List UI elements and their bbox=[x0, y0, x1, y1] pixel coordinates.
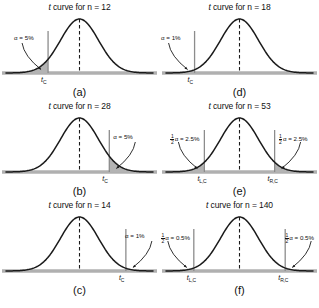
critical-value-label-0: tL,C bbox=[197, 175, 206, 184]
title-text: curve for n = 28 bbox=[51, 101, 111, 111]
leader-line bbox=[169, 43, 188, 70]
tick-subscript: L,C bbox=[199, 178, 206, 184]
panel-title: t curve for n = 18 bbox=[160, 2, 319, 12]
alpha-label-right: α = 1% bbox=[125, 233, 145, 239]
fraction-denominator: 2 bbox=[170, 139, 174, 145]
panel-letter: (e) bbox=[160, 185, 319, 197]
curve-plot bbox=[0, 13, 159, 85]
alpha-label-right: 12α = 2.5% bbox=[279, 134, 308, 145]
tick-subscript: L,C bbox=[189, 277, 196, 283]
panel-letter: (f) bbox=[160, 284, 319, 296]
alpha-value-text: α = 5% bbox=[113, 133, 133, 140]
alpha-value-text: α = 0.5% bbox=[289, 234, 314, 241]
alpha-value-text: α = 2.5% bbox=[283, 135, 308, 142]
panel-title: t curve for n = 14 bbox=[0, 200, 159, 210]
critical-value-label-0: tC bbox=[41, 76, 46, 85]
one-half-fraction: 12 bbox=[279, 134, 283, 145]
panel-title: t curve for n = 12 bbox=[0, 2, 159, 12]
critical-value-label-0: tL,C bbox=[187, 274, 196, 283]
title-text: curve for n = 12 bbox=[51, 2, 111, 12]
title-text: curve for n = 14 bbox=[51, 200, 111, 210]
alpha-value-text: α = 2.5% bbox=[175, 135, 200, 142]
panel-title: t curve for n = 140 bbox=[160, 200, 319, 210]
alpha-label-left: 12α = 0.5% bbox=[161, 233, 190, 244]
critical-value-label-1: tR,C bbox=[278, 274, 288, 283]
critical-value-label-0: tC bbox=[119, 274, 124, 283]
curve-plot bbox=[160, 211, 319, 283]
critical-value-label-0: tC bbox=[188, 76, 193, 85]
panel-b: t curve for n = 28α = 5%tC(b) bbox=[0, 101, 159, 203]
one-half-fraction: 12 bbox=[170, 134, 174, 145]
panel-letter: (a) bbox=[0, 86, 159, 98]
title-text: curve for n = 18 bbox=[211, 2, 271, 12]
critical-value-label-1: tR,C bbox=[268, 175, 278, 184]
curve-plot bbox=[0, 211, 159, 283]
panel-f: t curve for n = 14012α = 0.5%12α = 0.5%t… bbox=[160, 200, 319, 302]
title-text: curve for n = 140 bbox=[208, 200, 273, 210]
tick-subscript: C bbox=[121, 277, 124, 283]
tick-subscript: R,C bbox=[270, 178, 278, 184]
panel-a: t curve for n = 12α = 5%tC(a) bbox=[0, 2, 159, 104]
leader-line bbox=[116, 142, 135, 169]
curve-plot bbox=[160, 112, 319, 184]
panel-d: t curve for n = 18α = 1%tC(d) bbox=[160, 2, 319, 104]
leader-line bbox=[22, 43, 41, 70]
panel-title: t curve for n = 28 bbox=[0, 101, 159, 111]
alpha-value-text: α = 1% bbox=[161, 34, 181, 41]
alpha-label-left: α = 5% bbox=[14, 35, 34, 41]
panel-title: t curve for n = 53 bbox=[160, 101, 319, 111]
tick-subscript: R,C bbox=[280, 277, 288, 283]
leader-line bbox=[282, 142, 301, 169]
title-text: curve for n = 53 bbox=[211, 101, 271, 111]
alpha-label-left: α = 1% bbox=[161, 35, 181, 41]
alpha-label-left: 12α = 2.5% bbox=[170, 134, 199, 145]
leader-line bbox=[292, 241, 311, 268]
alpha-value-text: α = 5% bbox=[14, 34, 34, 41]
panel-e: t curve for n = 5312α = 2.5%12α = 2.5%tL… bbox=[160, 101, 319, 203]
leader-line bbox=[168, 241, 187, 268]
fraction-denominator: 2 bbox=[279, 139, 283, 145]
alpha-label-right: α = 5% bbox=[113, 134, 133, 140]
leader-line bbox=[178, 142, 197, 169]
leader-line bbox=[133, 241, 152, 268]
panel-letter: (b) bbox=[0, 185, 159, 197]
alpha-value-text: α = 1% bbox=[125, 232, 145, 239]
curve-plot bbox=[0, 112, 159, 184]
alpha-value-text: α = 0.5% bbox=[165, 234, 190, 241]
panel-letter: (c) bbox=[0, 284, 159, 296]
tick-subscript: C bbox=[43, 79, 46, 85]
t-curve-figure: t curve for n = 12α = 5%tC(a)t curve for… bbox=[0, 0, 319, 308]
tick-subscript: C bbox=[104, 178, 107, 184]
curve-plot bbox=[160, 13, 319, 85]
alpha-label-right: 12α = 0.5% bbox=[285, 233, 314, 244]
panel-c: t curve for n = 14α = 1%tC(c) bbox=[0, 200, 159, 302]
panel-letter: (d) bbox=[160, 86, 319, 98]
critical-value-label-0: tC bbox=[102, 175, 107, 184]
tick-subscript: C bbox=[190, 79, 193, 85]
